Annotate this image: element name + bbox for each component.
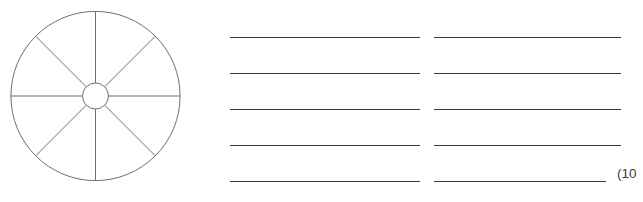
answer-line-row bbox=[220, 37, 643, 41]
answer-line-row bbox=[220, 145, 643, 149]
answer-line-left[interactable] bbox=[230, 145, 420, 146]
worksheet-page: (10 bbox=[0, 0, 643, 202]
answer-line-right[interactable] bbox=[434, 109, 621, 110]
wheel-diagram bbox=[0, 0, 200, 202]
wheel-hub-circle bbox=[83, 83, 109, 109]
answer-line-right[interactable] bbox=[434, 37, 621, 38]
answer-line-left[interactable] bbox=[230, 109, 420, 110]
answer-line-right[interactable] bbox=[434, 181, 606, 182]
answer-line-row bbox=[220, 109, 643, 113]
answer-line-left[interactable] bbox=[230, 181, 420, 182]
answer-line-right[interactable] bbox=[434, 145, 621, 146]
answer-lines-area: (10 bbox=[220, 0, 643, 202]
marks-label: (10 bbox=[617, 166, 637, 182]
answer-line-row bbox=[220, 181, 643, 185]
answer-line-left[interactable] bbox=[230, 37, 420, 38]
answer-line-right[interactable] bbox=[434, 73, 621, 74]
answer-line-left[interactable] bbox=[230, 73, 420, 74]
answer-line-row bbox=[220, 73, 643, 77]
wheel-diagram-svg bbox=[0, 0, 200, 202]
